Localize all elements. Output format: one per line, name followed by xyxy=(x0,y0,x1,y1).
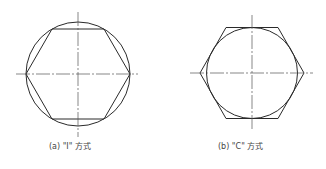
figure-a xyxy=(16,12,138,137)
figure-b-caption: (b) "C" 方式 xyxy=(218,140,263,151)
figure-b xyxy=(190,15,313,130)
figure-a-caption: (a) "I" 方式 xyxy=(49,140,91,151)
